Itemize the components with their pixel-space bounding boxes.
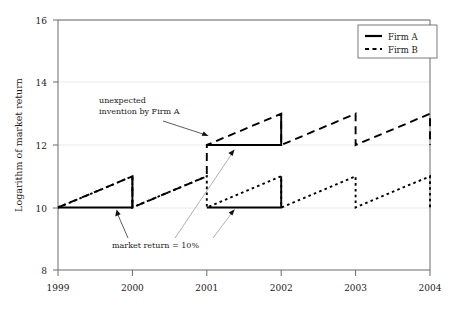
y-tick-label-10: 10	[36, 204, 48, 214]
annotation-market-return-text: market return = 10%	[112, 241, 199, 250]
y-tick-label-8: 8	[41, 266, 47, 276]
x-tick-label-2001: 2001	[195, 283, 218, 293]
x-tick-label-2003: 2003	[344, 283, 367, 293]
x-tick-label-2002: 2002	[270, 283, 293, 293]
chart-figure: 16 14 12 10 8 1999 2000 2001 2002 2003 2…	[0, 0, 458, 314]
x-tick-label-1999: 1999	[47, 283, 70, 293]
y-tick-label-16: 16	[36, 16, 48, 26]
x-tick-label-2004: 2004	[419, 283, 442, 293]
chart-legend[interactable]: Firm A Firm B	[358, 25, 437, 58]
annotation-invention-line2: invention by Firm A	[99, 107, 180, 116]
x-tick-label-2000: 2000	[121, 283, 144, 293]
legend-label-firm-a: Firm A	[388, 32, 418, 42]
y-tick-label-14: 14	[36, 78, 48, 88]
y-tick-label-12: 12	[36, 141, 47, 151]
market-return-chart: 16 14 12 10 8 1999 2000 2001 2002 2003 2…	[0, 0, 458, 314]
legend-label-firm-b: Firm B	[388, 45, 418, 55]
y-axis-title: Logarithm of market return	[13, 78, 24, 212]
annotation-invention-line1: unexpected	[99, 96, 146, 105]
